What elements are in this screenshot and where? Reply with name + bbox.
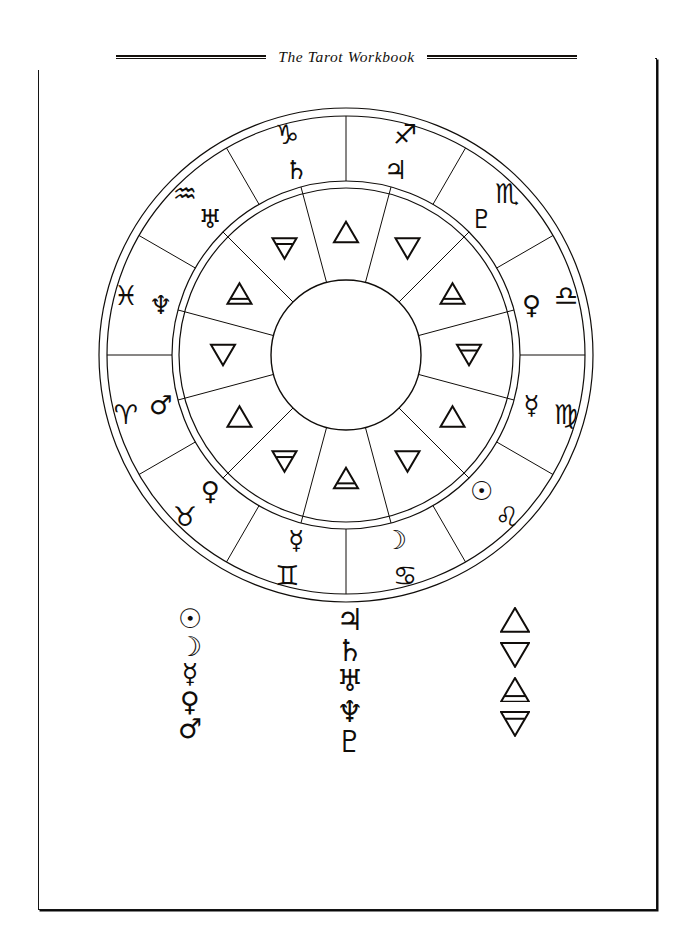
wheel-outer-divider xyxy=(139,236,195,269)
wheel-element-earth-icon xyxy=(273,238,297,258)
wheel-inner-divider xyxy=(178,374,274,400)
legend-personal-sun: ☉ xyxy=(178,605,202,633)
wheel-ruler-aries-mars: ♂ xyxy=(149,390,172,420)
wheel-sign-aries: ♈ xyxy=(114,399,138,430)
wheel-element-earth-icon xyxy=(273,451,297,471)
legend-personal-moon: ☽ xyxy=(178,633,202,661)
wheel-sign-gemini: ♊ xyxy=(275,560,299,591)
legend-personal-mars: ♂ xyxy=(178,715,202,743)
wheel-ruler-gemini-mercury: ☿ xyxy=(288,525,304,555)
zodiac-wheel: ♐♃♏♇♎♀♍☿♌☉♋☽♊☿♉♀♈♂♓♆♒♅♑♄ xyxy=(96,105,596,605)
wheel-inner-divider xyxy=(399,232,469,302)
legend-element-earth-icon xyxy=(500,711,530,741)
wheel-sign-sagittarius: ♐ xyxy=(393,119,417,150)
wheel-inner-divider xyxy=(301,187,327,283)
running-head: The Tarot Workbook xyxy=(38,44,655,70)
wheel-ruler-scorpio-pluto: ♇ xyxy=(470,204,493,234)
wheel-sign-virgo: ♍ xyxy=(554,399,578,430)
legend-element-air-icon xyxy=(500,677,530,707)
wheel-sign-aquarius: ♒ xyxy=(173,178,197,209)
legend-outer-uranus: ♅ xyxy=(337,666,364,697)
wheel-sign-scorpio: ♏ xyxy=(495,178,519,209)
wheel-element-air-icon xyxy=(227,283,251,303)
wheel-inner-divider xyxy=(418,374,514,400)
wheel-element-fire-icon xyxy=(441,406,465,426)
wheel-outer-divider xyxy=(433,506,466,562)
wheel-inner-glyphs xyxy=(211,222,481,488)
running-head-title: The Tarot Workbook xyxy=(278,48,415,66)
wheel-element-fire-icon xyxy=(227,406,251,426)
wheel-outer-divider xyxy=(227,506,260,562)
wheel-sign-leo: ♌ xyxy=(495,501,519,532)
wheel-ruler-pisces-neptune: ♆ xyxy=(149,290,172,320)
wheel-sign-libra: ♎ xyxy=(554,280,578,311)
wheel-element-earth-icon xyxy=(457,345,481,365)
wheel-outer-glyphs: ♐♃♏♇♎♀♍☿♌☉♋☽♊☿♉♀♈♂♓♆♒♅♑♄ xyxy=(114,119,579,590)
legend-element-water-icon xyxy=(500,642,530,672)
wheel-outer-divider xyxy=(433,148,466,204)
wheel-element-air-icon xyxy=(441,283,465,303)
wheel-outer-divider xyxy=(227,148,260,204)
wheel-inner-divider xyxy=(365,427,391,523)
running-head-rule-right xyxy=(427,55,577,59)
wheel-ruler-cancer-moon: ☽ xyxy=(384,525,407,555)
wheel-element-water-icon xyxy=(396,238,420,258)
wheel-inner-divider xyxy=(178,310,274,336)
legend-column-outer-planets: ♃ ♄ ♅ ♆ ♇ xyxy=(290,605,410,758)
wheel-sign-capricorn: ♑ xyxy=(275,119,299,150)
wheel-ruler-capricorn-saturn: ♄ xyxy=(285,155,308,185)
legend-personal-mercury: ☿ xyxy=(182,660,199,688)
legend-personal-venus: ♀ xyxy=(180,688,200,716)
wheel-element-fire-icon xyxy=(334,222,358,242)
legend-outer-pluto: ♇ xyxy=(337,727,364,758)
center-circle xyxy=(271,280,421,430)
wheel-sign-taurus: ♉ xyxy=(173,501,197,532)
wheel-element-water-icon xyxy=(396,451,420,471)
wheel-ruler-leo-sun: ☉ xyxy=(470,476,493,506)
wheel-sign-cancer: ♋ xyxy=(393,560,417,591)
wheel-inner-divider xyxy=(301,427,327,523)
wheel-ruler-taurus-venus: ♀ xyxy=(201,476,220,506)
wheel-ruler-aquarius-uranus: ♅ xyxy=(199,204,222,234)
legend-outer-saturn: ♄ xyxy=(337,636,364,667)
wheel-outer-divider xyxy=(497,236,553,269)
legend-outer-jupiter: ♃ xyxy=(337,605,364,636)
legend-column-personal-planets: ☉ ☽ ☿ ♀ ♂ xyxy=(120,605,260,743)
legend: ☉ ☽ ☿ ♀ ♂ ♃ ♄ ♅ ♆ ♇ xyxy=(120,605,590,795)
wheel-inner-divider xyxy=(223,232,293,302)
wheel-outer-divider xyxy=(497,442,553,475)
running-head-rule-left xyxy=(116,55,266,59)
wheel-ruler-virgo-mercury: ☿ xyxy=(523,390,539,420)
wheel-ruler-sagittarius-jupiter: ♃ xyxy=(384,155,407,185)
legend-element-fire-icon xyxy=(500,607,530,637)
wheel-inner-divider xyxy=(418,310,514,336)
wheel-element-water-icon xyxy=(211,345,235,365)
legend-column-elements xyxy=(440,605,590,744)
wheel-ruler-libra-venus: ♀ xyxy=(522,290,541,320)
wheel-element-air-icon xyxy=(334,468,358,488)
legend-outer-neptune: ♆ xyxy=(337,697,364,728)
wheel-inner-divider xyxy=(365,187,391,283)
wheel-sign-pisces: ♓ xyxy=(114,280,138,311)
wheel-outer-divider xyxy=(139,442,195,475)
